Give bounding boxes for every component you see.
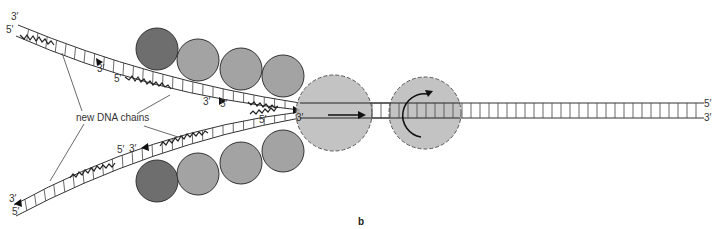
label-right-5: 5′ <box>704 98 712 109</box>
protein-lower-4 <box>262 130 304 172</box>
protein-upper-4 <box>262 55 304 97</box>
label-upper-mid-3: 3′ <box>97 63 105 74</box>
protein-dark-lower <box>136 160 178 202</box>
protein-lower-3 <box>220 142 262 184</box>
protein-dark-upper <box>136 28 178 70</box>
label-lower-mid-5: 5′ <box>117 144 125 155</box>
helicase-dashed <box>389 77 461 149</box>
label-upper-fork-5: 5′ <box>220 98 228 109</box>
label-bottom-left-3: 3′ <box>9 193 17 204</box>
label-lower-mid-3: 3′ <box>129 143 137 154</box>
label-upper-fork-3: 3′ <box>203 96 211 107</box>
new-dna-chains-label: new DNA chains <box>76 112 149 123</box>
label-bottom-left-5: 5′ <box>12 206 20 217</box>
label-top-left-3: 3′ <box>11 11 19 22</box>
label-lower-fork-5: 5′ <box>259 114 267 125</box>
label-upper-mid-5: 5′ <box>114 73 122 84</box>
label-right-3: 3′ <box>704 112 712 123</box>
label-fork-center-3: 3′ <box>296 112 304 123</box>
protein-upper-3 <box>220 48 262 90</box>
upper-protein-chain <box>136 28 304 97</box>
lower-protein-chain <box>136 130 304 202</box>
figure-caption: b <box>358 216 364 227</box>
label-top-left-5: 5′ <box>6 24 14 35</box>
dna-replication-fork-diagram: new DNA chains 3′ 5′ 3′ 5′ 3′ 5′ 3′ 5′ 5… <box>0 0 717 229</box>
protein-upper-2 <box>177 39 219 81</box>
protein-lower-2 <box>177 153 219 195</box>
